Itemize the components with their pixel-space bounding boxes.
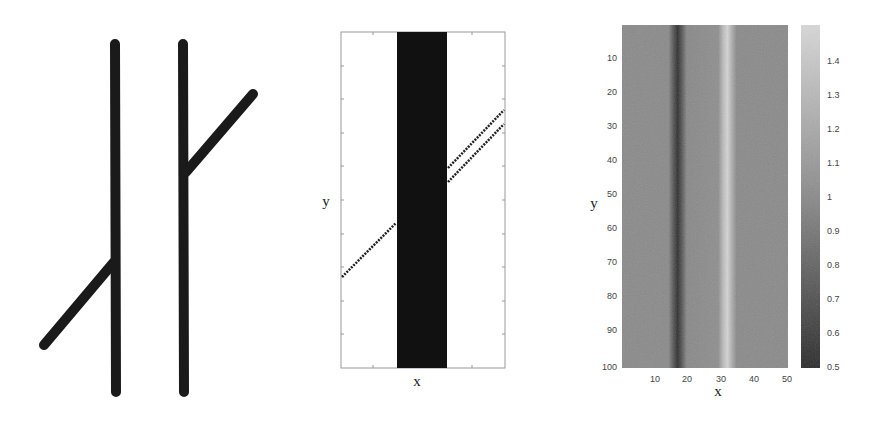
svg-text:10: 10 (650, 374, 660, 384)
svg-text:60: 60 (607, 223, 617, 233)
svg-text:0.9: 0.9 (827, 226, 840, 236)
svg-text:40: 40 (607, 155, 617, 165)
svg-text:1.1: 1.1 (827, 158, 840, 168)
x-axis-label: x (413, 373, 421, 389)
right-vertical-bar (183, 44, 184, 392)
svg-text:20: 20 (607, 87, 617, 97)
left-oblique-segment (44, 262, 114, 345)
svg-text:30: 30 (607, 121, 617, 131)
y-axis-label: y (322, 193, 330, 209)
heatmap-panel: 10 20 30 40 50 60 70 80 90 100 10 20 30 … (580, 20, 873, 400)
svg-text:10: 10 (607, 53, 617, 63)
binary-image-plot: x y (320, 20, 520, 400)
svg-text:90: 90 (607, 325, 617, 335)
left-vertical-bar (115, 44, 116, 392)
svg-text:0.8: 0.8 (827, 260, 840, 270)
svg-text:70: 70 (607, 257, 617, 267)
svg-text:80: 80 (607, 291, 617, 301)
illusion-diagram (0, 0, 300, 424)
svg-text:1.2: 1.2 (827, 124, 840, 134)
svg-text:20: 20 (682, 374, 692, 384)
right-oblique-segment (186, 94, 253, 172)
svg-text:0.6: 0.6 (827, 328, 840, 338)
illusion-diagram-panel (0, 0, 300, 424)
binary-image-panel: x y (320, 20, 520, 400)
svg-text:50: 50 (782, 374, 792, 384)
colorbar-tick-labels: 1.4 1.3 1.2 1.1 1 0.9 0.8 0.7 0.6 0.5 (827, 56, 840, 372)
svg-text:0.7: 0.7 (827, 294, 840, 304)
svg-text:0.5: 0.5 (827, 362, 840, 372)
black-vertical-bar (397, 32, 447, 368)
svg-text:100: 100 (602, 362, 617, 372)
y-axis-label: y (590, 195, 598, 211)
svg-text:1.4: 1.4 (827, 56, 840, 66)
svg-text:40: 40 (749, 374, 759, 384)
x-axis-label: x (714, 383, 722, 399)
svg-text:50: 50 (607, 189, 617, 199)
svg-text:1: 1 (827, 192, 832, 202)
svg-text:1.3: 1.3 (827, 90, 840, 100)
y-tick-labels: 10 20 30 40 50 60 70 80 90 100 (602, 53, 617, 372)
heatmap-plot: 10 20 30 40 50 60 70 80 90 100 10 20 30 … (580, 20, 873, 400)
